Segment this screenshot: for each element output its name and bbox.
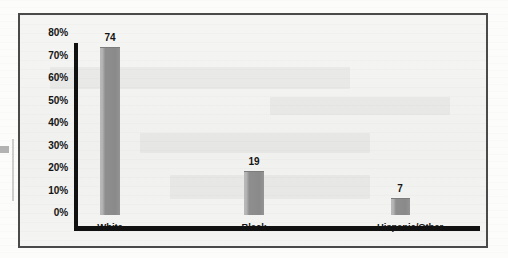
category-label-hispanic-other: Hispanic/Other bbox=[350, 222, 470, 232]
y-tick-label-10: 10% bbox=[20, 186, 68, 196]
bleed-smudge bbox=[140, 133, 370, 153]
y-tick-label-70: 70% bbox=[20, 51, 68, 61]
bar-white bbox=[100, 47, 120, 215]
y-tick-label-40: 40% bbox=[20, 118, 68, 128]
y-tick-label-0: 0% bbox=[20, 208, 68, 218]
bar-hispanic-other bbox=[391, 198, 410, 215]
y-axis-line bbox=[74, 43, 78, 230]
category-label-white: White bbox=[70, 222, 150, 232]
y-tick-label-30: 30% bbox=[20, 141, 68, 151]
y-tick-label-80: 80% bbox=[20, 28, 68, 38]
bar-value-black: 19 bbox=[234, 157, 274, 167]
category-label-black: Black bbox=[214, 222, 294, 232]
bar-black bbox=[244, 171, 264, 215]
bleed-smudge bbox=[170, 175, 370, 199]
bar-value-hispanic-other: 7 bbox=[380, 184, 420, 194]
scan-edge-artifact bbox=[0, 146, 9, 153]
chart-frame: 80% 70% 60% 50% 40% 30% 20% 10% 0% 74 Wh… bbox=[18, 13, 488, 248]
bleed-smudge bbox=[270, 97, 450, 115]
bleed-smudge bbox=[50, 67, 350, 89]
y-tick-label-50: 50% bbox=[20, 96, 68, 106]
bar-value-white: 74 bbox=[90, 33, 130, 43]
y-tick-label-20: 20% bbox=[20, 163, 68, 173]
y-tick-label-60: 60% bbox=[20, 73, 68, 83]
scan-edge-line-artifact bbox=[12, 139, 14, 201]
chart-page: 80% 70% 60% 50% 40% 30% 20% 10% 0% 74 Wh… bbox=[0, 0, 508, 258]
y-axis-tick-labels: 80% 70% 60% 50% 40% 30% 20% 10% 0% bbox=[20, 15, 68, 250]
